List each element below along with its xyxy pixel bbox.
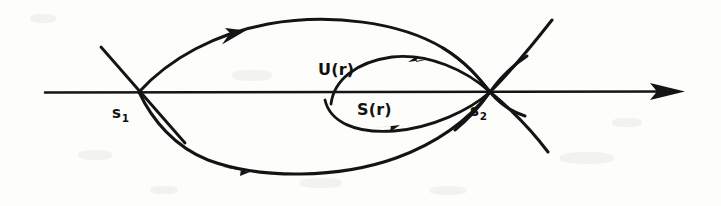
saddle-one-label-base: s (112, 104, 121, 122)
inner-lower-loop (325, 92, 490, 131)
saddle-two-label-subscript: 2 (480, 110, 488, 122)
saddle-two-label-base: s (470, 102, 479, 120)
stable-manifold-label: S(r) (357, 102, 392, 118)
saddle-one-label: s1 (112, 106, 129, 121)
unstable-manifold-label: U(r) (318, 62, 354, 78)
saddle-one-label-subscript: 1 (122, 112, 130, 124)
saddle-two-label: s2 (470, 104, 487, 119)
outer-upper-separatrix (139, 19, 490, 92)
phase-portrait-figure: U(r) S(r) s1 s2 (0, 0, 721, 206)
outer-lower-separatrix (139, 92, 490, 174)
